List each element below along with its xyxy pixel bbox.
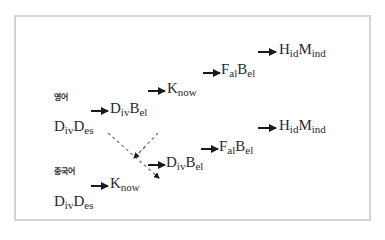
node-sub: el — [247, 67, 255, 79]
row1-step1-node: DivBel — [110, 101, 147, 116]
node-sub: el — [139, 106, 147, 118]
row2-step3-node: FalBel — [219, 139, 253, 154]
crossover-dashed-arrows — [108, 133, 159, 178]
node-main: D — [54, 118, 65, 134]
row1-step3-node: FalBel — [221, 62, 255, 77]
node-sub: es — [84, 124, 93, 136]
node-sub: el — [245, 144, 253, 156]
node-main: K — [167, 80, 178, 96]
node-main: D — [54, 193, 65, 209]
node-main: D — [166, 154, 177, 170]
node-sub: now — [121, 181, 140, 193]
node-main: D — [73, 193, 84, 209]
row2-step1-node: Know — [110, 176, 140, 191]
node-sub: el — [195, 160, 203, 172]
node-main: M — [298, 41, 311, 57]
row2-start-node: DivDes — [54, 194, 93, 209]
row1-start-node: DivDes — [54, 119, 93, 134]
node-sub: es — [84, 199, 93, 211]
row-label-chinese: 중국어 — [54, 168, 75, 176]
node-sub: now — [178, 86, 197, 98]
row2-step4-node: HidMind — [279, 118, 326, 133]
node-main: M — [298, 117, 311, 133]
node-main: B — [237, 61, 247, 77]
node-main: K — [110, 175, 121, 191]
node-main: D — [110, 100, 121, 116]
node-main: D — [73, 118, 84, 134]
node-main: B — [185, 154, 195, 170]
row2-step2-node: DivBel — [166, 155, 203, 170]
row1-step4-node: HidMind — [279, 42, 326, 57]
node-sub: ind — [312, 123, 326, 135]
row-label-english: 영어 — [54, 94, 68, 102]
node-main: B — [129, 100, 139, 116]
row1-step2-node: Know — [167, 81, 197, 96]
node-main: H — [279, 41, 290, 57]
node-sub: ind — [312, 47, 326, 59]
node-main: H — [279, 117, 290, 133]
node-main: B — [235, 138, 245, 154]
